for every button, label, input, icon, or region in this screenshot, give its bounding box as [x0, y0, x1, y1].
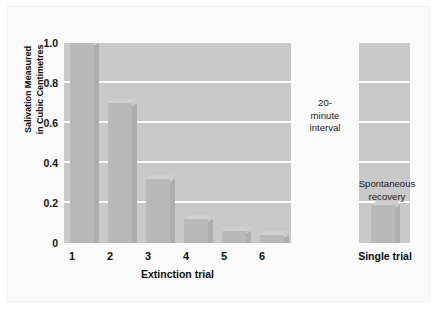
x-tick-2: 2 [98, 250, 122, 262]
bar-side [132, 103, 137, 243]
x-tick-4: 4 [174, 250, 198, 262]
bar-face [222, 231, 246, 243]
bar-top [260, 231, 289, 235]
bar-trial-2 [108, 103, 132, 243]
plot-area-extinction [64, 43, 291, 243]
bar-face [70, 43, 94, 243]
bar-face [260, 235, 284, 243]
x-axis-label-single-trial: Single trial [343, 250, 427, 262]
bar-side [208, 219, 213, 243]
bar-side [284, 235, 289, 243]
bar-top [184, 215, 213, 219]
bar-side [395, 205, 400, 243]
x-tick-3: 3 [136, 250, 160, 262]
bar-trial-1 [70, 43, 94, 243]
y-tick-0: 0 [24, 237, 58, 249]
y-tick-0.6: 0.6 [24, 117, 58, 129]
y-tick-0.2: 0.2 [24, 197, 58, 209]
gridline-0.8 [359, 81, 410, 83]
figure: Salivation Measured in Cubic Centimetres… [0, 0, 439, 315]
x-axis-label-extinction: Extinction trial [64, 268, 291, 280]
plot-area-spontaneous-recovery [359, 43, 410, 243]
bar-side [170, 179, 175, 243]
annotation-spontaneous-recovery: Spontaneous recovery [337, 178, 437, 203]
annotation-20-minute-interval: 20- minute interval [293, 97, 357, 135]
annotation-interval-line1: 20- [293, 97, 357, 110]
bar-top [146, 175, 175, 179]
x-tick-5: 5 [212, 250, 236, 262]
bar-side [246, 231, 251, 243]
bar-trial-3 [146, 179, 170, 243]
annotation-interval-line3: interval [293, 122, 357, 135]
bar-trial-4 [184, 219, 208, 243]
bar-face [108, 103, 132, 243]
x-tick-6: 6 [250, 250, 274, 262]
bar-side [94, 43, 99, 243]
annotation-recovery-line2: recovery [337, 191, 437, 204]
gridline-0.6 [359, 121, 410, 123]
bar-top [222, 227, 251, 231]
gridline-0.4 [359, 161, 410, 163]
bar-face [371, 205, 395, 243]
annotation-interval-line2: minute [293, 110, 357, 123]
bar-face [146, 179, 170, 243]
y-tick-1.0: 1.0 [24, 37, 58, 49]
bar-top [108, 99, 137, 103]
bar-single-trial [371, 205, 395, 243]
y-tick-0.8: 0.8 [24, 77, 58, 89]
x-tick-1: 1 [60, 250, 84, 262]
bar-trial-5 [222, 231, 246, 243]
bar-trial-6 [260, 235, 284, 243]
y-tick-0.4: 0.4 [24, 157, 58, 169]
bar-face [184, 219, 208, 243]
annotation-recovery-line1: Spontaneous [337, 178, 437, 191]
y-axis-ticks: 1.0 0.8 0.6 0.4 0.2 0 [20, 0, 58, 315]
